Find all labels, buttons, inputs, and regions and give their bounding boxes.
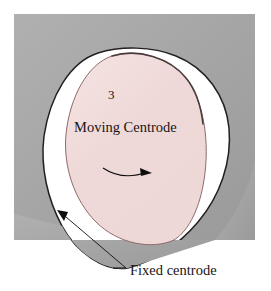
figure-canvas: [0, 0, 271, 291]
label-body-number: 3: [108, 88, 115, 101]
centrode-figure: 3 Moving Centrode Fixed centrode: [0, 0, 271, 291]
label-fixed-centrode: Fixed centrode: [130, 263, 217, 278]
label-moving-centrode: Moving Centrode: [74, 120, 177, 135]
